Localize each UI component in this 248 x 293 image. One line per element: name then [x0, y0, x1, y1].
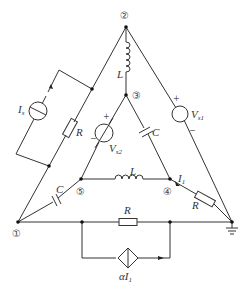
label-l-top: L	[116, 68, 123, 80]
node-dot-3	[124, 93, 128, 97]
polarity-plus-vs2: +	[103, 112, 110, 121]
junction-dot	[90, 87, 94, 91]
polarity-minus-vs2: −	[90, 134, 97, 143]
label-l-mid: L	[129, 165, 136, 177]
circuit-diagram: ② ③ ⑤ ④ ① L C L C R R R Is Vs1 Vs2 I1 αI…	[0, 0, 248, 293]
junction-dot	[80, 220, 84, 224]
polarity-minus-vs1: −	[189, 126, 196, 135]
node-dot-2	[124, 25, 128, 29]
cccs-source	[82, 222, 170, 268]
junction-dot	[168, 220, 172, 224]
node-label-4: ④	[163, 186, 172, 197]
resistor-bottom	[18, 219, 232, 226]
polarity-plus-vs1: +	[173, 94, 180, 103]
inductor-mid	[81, 175, 170, 179]
node-label-3: ③	[132, 90, 141, 101]
label-r-right: R	[191, 199, 199, 211]
node-dot-ground	[230, 220, 234, 224]
node-dot-5	[79, 177, 83, 181]
label-c-left: C	[56, 183, 64, 195]
capacitor-left	[18, 179, 81, 222]
node-label-5: ⑤	[76, 186, 85, 197]
ground-icon	[226, 222, 238, 234]
label-cccs: αI1	[119, 270, 132, 284]
voltage-source-vs2	[81, 95, 126, 179]
label-r-left: R	[75, 126, 83, 138]
label-c-inner: C	[152, 126, 160, 138]
node-label-2: ②	[120, 10, 129, 21]
junction-dot	[47, 164, 51, 168]
resistor-right	[170, 179, 232, 222]
resistor-left	[49, 89, 92, 166]
label-r-bottom: R	[123, 204, 131, 216]
arrow-icon	[158, 256, 164, 260]
wire-is-bottom	[16, 154, 49, 166]
node-dot-4	[168, 177, 172, 181]
node-label-1: ①	[12, 228, 21, 239]
inductor-top	[126, 27, 130, 95]
current-source-is	[16, 70, 92, 154]
label-vs2: Vs2	[109, 142, 122, 156]
node-dot-1	[16, 220, 20, 224]
label-i1: I1	[177, 172, 185, 186]
label-is: Is	[17, 103, 25, 117]
label-vs1: Vs1	[191, 108, 204, 122]
